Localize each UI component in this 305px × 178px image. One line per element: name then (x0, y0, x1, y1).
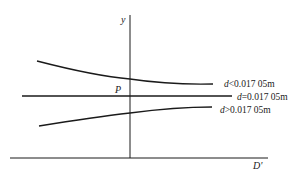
curve-lower (39, 107, 212, 126)
curve-upper-label: d<0.017 05m (224, 79, 275, 89)
diagram-canvas: y D' P d<0.017 05m d=0.017 05m d>0.017 0… (0, 0, 305, 178)
x-axis-label: D' (252, 160, 263, 171)
curve-upper-relation: <0.017 05m (229, 79, 276, 89)
y-axis-label: y (120, 14, 126, 25)
curve-lower-relation: >0.017 05m (225, 105, 272, 115)
curve-middle-relation: =0.017 05m (242, 92, 289, 102)
curve-upper (37, 61, 213, 84)
curve-middle-label: d=0.017 05m (237, 92, 288, 102)
point-p-label: P (114, 84, 121, 95)
curve-lower-label: d>0.017 05m (220, 105, 271, 115)
